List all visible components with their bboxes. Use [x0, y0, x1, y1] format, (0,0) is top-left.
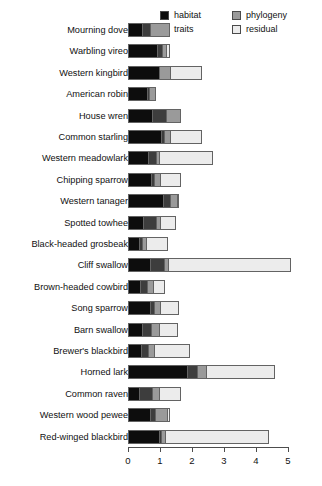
bar-segment-phylogeny: [151, 324, 159, 336]
category-label: Chipping sparrow: [57, 175, 129, 185]
category-label: Western kingbird: [59, 68, 128, 78]
category-label: Brown-headed cowbird: [34, 282, 128, 292]
category-label: Mourning dove: [67, 25, 128, 35]
stacked-bar: [128, 66, 202, 80]
bar-segment-residual: [177, 195, 178, 207]
chart-row: Horned lark: [0, 362, 322, 382]
bar-segment-residual: [160, 217, 175, 229]
category-label: Red-winged blackbird: [40, 432, 128, 442]
bar-segment-residual: [170, 131, 201, 143]
stacked-bar: [128, 194, 179, 208]
chart-row: Song sparrow: [0, 298, 322, 318]
x-axis-tick-label: 2: [182, 455, 202, 466]
bar-segment-phylogeny: [166, 110, 180, 122]
bar-segment-phylogeny: [152, 388, 159, 400]
bar-segment-residual: [159, 152, 212, 164]
stacked-bar: [128, 301, 179, 315]
chart-row: Brown-headed cowbird: [0, 277, 322, 297]
chart-row: Barn swallow: [0, 320, 322, 340]
chart-row: Common starling: [0, 127, 322, 147]
bar-segment-phylogeny: [154, 302, 161, 314]
bar-segment-habitat: [129, 302, 150, 314]
chart-row: Black-headed grosbeak: [0, 234, 322, 254]
bar-segment-habitat: [129, 238, 139, 250]
stacked-bar: [128, 408, 170, 422]
bar-segment-traits: [143, 217, 156, 229]
x-axis: 012345: [0, 447, 322, 481]
bar-segment-habitat: [129, 281, 140, 293]
stacked-bar: [128, 387, 181, 401]
category-label: Brewer's blackbird: [53, 346, 128, 356]
chart-row: Red-winged blackbird: [0, 427, 322, 447]
bar-segment-phylogeny: [159, 67, 170, 79]
category-label: Common raven: [65, 389, 128, 399]
bar-segment-residual: [170, 67, 201, 79]
category-label: Black-headed grosbeak: [31, 239, 128, 249]
bar-segment-phylogeny: [197, 366, 206, 378]
bar-segment-habitat: [129, 259, 150, 271]
chart-row: House wren: [0, 106, 322, 126]
stacked-bar: [128, 173, 181, 187]
x-axis-tick: [160, 447, 161, 452]
x-axis-tick: [288, 447, 289, 452]
category-label: Warbling vireo: [70, 46, 128, 56]
stacked-bar: [128, 430, 269, 444]
bar-segment-habitat: [129, 195, 163, 207]
chart-row: Warbling vireo: [0, 41, 322, 61]
stacked-bar: [128, 365, 275, 379]
stacked-bar: [128, 23, 170, 37]
x-axis-tick-label: 1: [150, 455, 170, 466]
bar-segment-residual: [165, 431, 268, 443]
bar-segment-habitat: [129, 431, 159, 443]
bar-segment-habitat: [129, 366, 187, 378]
chart-row: Common raven: [0, 384, 322, 404]
bar-segment-habitat: [129, 409, 150, 421]
x-axis-tick: [192, 447, 193, 452]
x-axis-tick: [128, 447, 129, 452]
bar-segment-habitat: [129, 174, 151, 186]
bar-segment-habitat: [129, 110, 152, 122]
stacked-bar: [128, 323, 178, 337]
chart-row: Mourning dove: [0, 20, 322, 40]
bar-segment-habitat: [129, 345, 141, 357]
category-label: Horned lark: [81, 367, 129, 377]
category-label: Western meadowlark: [42, 153, 128, 163]
x-axis-tick-label: 4: [246, 455, 266, 466]
bar-segment-residual: [159, 324, 177, 336]
x-axis-line: [128, 447, 289, 448]
bar-segment-traits: [148, 152, 155, 164]
bar-segment-habitat: [129, 24, 142, 36]
stacked-bar: [128, 109, 181, 123]
stacked-bar: [128, 216, 176, 230]
chart-row: Western tanager: [0, 191, 322, 211]
x-axis-tick-label: 3: [214, 455, 234, 466]
category-label: Spotted towhee: [64, 218, 128, 228]
bar-segment-phylogeny: [170, 195, 178, 207]
bar-segment-residual: [146, 238, 167, 250]
category-label: Western tanager: [60, 196, 128, 206]
stacked-bar: [128, 344, 190, 358]
category-label: Common starling: [59, 132, 128, 142]
chart-row: Western meadowlark: [0, 148, 322, 168]
bar-segment-traits: [141, 345, 148, 357]
x-axis-tick-label: 0: [118, 455, 138, 466]
x-axis-tick: [224, 447, 225, 452]
stacked-bar: [128, 151, 213, 165]
bar-segment-phylogeny: [155, 409, 167, 421]
chart-row: Cliff swallow: [0, 255, 322, 275]
bar-segment-habitat: [129, 45, 157, 57]
x-axis-tick-label: 5: [278, 455, 298, 466]
bar-segment-phylogeny: [149, 88, 155, 100]
bar-segment-phylogeny: [150, 24, 169, 36]
category-label: Barn swallow: [74, 325, 128, 335]
category-label: American robin: [66, 89, 128, 99]
plot-area: Mourning doveWarbling vireoWestern kingb…: [0, 0, 322, 486]
bar-segment-residual: [206, 366, 274, 378]
bar-segment-residual: [160, 174, 179, 186]
bar-segment-habitat: [129, 131, 161, 143]
bar-segment-residual: [159, 388, 180, 400]
stacked-bar-chart: habitat traits phylogeny residual Mourni…: [0, 0, 322, 486]
bar-segment-residual: [160, 302, 178, 314]
bar-segment-traits: [152, 110, 166, 122]
bar-segment-traits: [163, 195, 170, 207]
